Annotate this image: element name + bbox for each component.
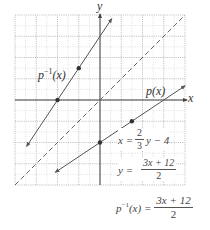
- function-label: p(x): [146, 84, 165, 99]
- equation-y-solved: y = 3x + 12 2: [118, 158, 176, 181]
- marked-point: [77, 66, 81, 70]
- marked-point: [130, 119, 134, 123]
- marked-point: [98, 140, 102, 144]
- eq1-denominator: 3: [137, 141, 142, 151]
- eq2-numerator: 3x + 12: [141, 158, 176, 168]
- eq2-lhs: y =: [118, 164, 133, 176]
- eq2-denominator: 2: [156, 171, 161, 181]
- inverse-arg: (x): [53, 68, 66, 82]
- eq1-rhs: y − 4: [146, 134, 169, 146]
- eq1-lhs: x =: [118, 134, 133, 146]
- final-sup: −1: [122, 201, 129, 209]
- x-axis-label: x: [188, 91, 193, 106]
- final-inverse-equation: p−1(x) = 3x + 12 2: [116, 195, 193, 220]
- inverse-sup: −1: [44, 67, 53, 76]
- eq1-fraction: 2 3: [135, 128, 144, 151]
- inverse-function-label: p−1(x): [38, 67, 66, 83]
- equation-x-in-terms-of-y: x = 2 3 y − 4: [118, 128, 169, 151]
- eq1-numerator: 2: [135, 128, 144, 138]
- final-numerator: 3x + 12: [154, 195, 192, 206]
- y-axis-label: y: [97, 0, 102, 14]
- final-denominator: 2: [171, 209, 177, 220]
- final-fraction: 3x + 12 2: [154, 195, 192, 220]
- marked-point: [55, 98, 59, 102]
- eq2-fraction: 3x + 12 2: [141, 158, 176, 181]
- final-arg: (x) =: [129, 202, 151, 214]
